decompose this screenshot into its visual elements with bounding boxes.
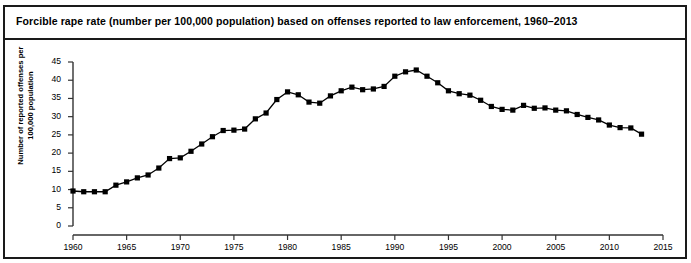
data-point-marker (521, 103, 526, 108)
y-axis-tick-label: 40 (35, 74, 61, 84)
data-point-marker (231, 128, 236, 133)
data-point-marker (371, 86, 376, 91)
y-axis-tick-label: 10 (35, 184, 61, 194)
y-axis-tick-label: 0 (35, 220, 61, 230)
data-point-marker (242, 126, 247, 131)
data-point-marker (188, 149, 193, 154)
data-point-marker (607, 122, 612, 127)
data-point-marker (489, 104, 494, 109)
data-point-marker (510, 108, 515, 113)
data-point-marker (360, 87, 365, 92)
x-axis-tick-label: 2000 (482, 242, 522, 252)
data-point-marker (414, 67, 419, 72)
x-axis-tick-label: 2005 (536, 242, 576, 252)
y-axis-tick-label: 30 (35, 111, 61, 121)
data-point-marker (435, 80, 440, 85)
plot-area: Number of reported offenses per 100,000 … (0, 0, 691, 263)
data-point-marker (542, 105, 547, 110)
data-point-marker (403, 69, 408, 74)
x-axis-tick-label: 1980 (268, 242, 308, 252)
data-point-marker (210, 134, 215, 139)
data-point-marker (457, 91, 462, 96)
y-axis-tick-label: 45 (35, 56, 61, 66)
data-point-marker (317, 101, 322, 106)
data-point-marker (92, 189, 97, 194)
y-axis-tick-label: 35 (35, 92, 61, 102)
data-point-marker (532, 106, 537, 111)
data-point-marker (585, 115, 590, 120)
data-point-marker (253, 116, 258, 121)
data-point-marker (263, 110, 268, 115)
data-point-marker (103, 189, 108, 194)
chart-figure: Forcible rape rate (number per 100,000 p… (0, 0, 691, 263)
data-point-marker (381, 84, 386, 89)
data-point-marker (167, 156, 172, 161)
data-point-marker (596, 117, 601, 122)
data-point-marker (639, 132, 644, 137)
data-point-marker (553, 108, 558, 113)
data-point-marker (424, 74, 429, 79)
x-axis-tick-label: 1995 (428, 242, 468, 252)
data-point-marker (124, 179, 129, 184)
y-axis-tick-label: 15 (35, 165, 61, 175)
x-axis-tick-label: 1960 (53, 242, 93, 252)
data-series-line (73, 70, 642, 192)
data-point-marker (392, 74, 397, 79)
data-point-marker (135, 175, 140, 180)
data-point-marker (221, 128, 226, 133)
data-point-marker (478, 98, 483, 103)
y-axis-tick-label: 25 (35, 129, 61, 139)
data-point-marker (328, 93, 333, 98)
data-point-marker (575, 112, 580, 117)
x-axis-tick-label: 2010 (589, 242, 629, 252)
y-axis-tick-label: 20 (35, 147, 61, 157)
data-point-marker (339, 88, 344, 93)
data-point-marker (296, 92, 301, 97)
data-point-marker (81, 189, 86, 194)
data-point-marker (306, 99, 311, 104)
x-axis-tick-label: 2015 (643, 242, 683, 252)
data-point-marker (617, 125, 622, 130)
data-point-marker (274, 97, 279, 102)
data-point-marker (70, 188, 75, 193)
x-axis-tick-label: 1985 (321, 242, 361, 252)
y-axis-tick-label: 5 (35, 202, 61, 212)
x-axis-tick-label: 1990 (375, 242, 415, 252)
chart-canvas (0, 0, 691, 263)
data-point-marker (499, 107, 504, 112)
data-point-marker (113, 183, 118, 188)
data-point-marker (178, 155, 183, 160)
data-point-marker (467, 93, 472, 98)
data-point-marker (285, 89, 290, 94)
data-point-marker (564, 108, 569, 113)
data-point-marker (349, 85, 354, 90)
data-point-marker (199, 141, 204, 146)
x-axis-tick-label: 1970 (160, 242, 200, 252)
x-axis-tick-label: 1965 (107, 242, 147, 252)
data-point-marker (156, 165, 161, 170)
data-point-marker (145, 172, 150, 177)
x-axis-tick-label: 1975 (214, 242, 254, 252)
data-point-marker (628, 125, 633, 130)
data-point-marker (446, 88, 451, 93)
